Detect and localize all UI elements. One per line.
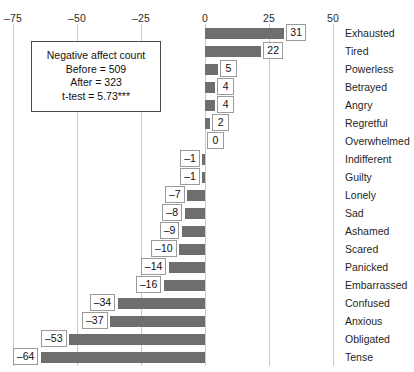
chart-row: –1Indifferent xyxy=(0,150,414,168)
bar xyxy=(205,100,215,111)
annotation-box: Negative affect count Before = 509 After… xyxy=(31,41,161,112)
annotation-line-3: After = 323 xyxy=(36,76,156,90)
bar xyxy=(41,352,205,363)
bar-value-label: –1 xyxy=(180,168,200,185)
bar xyxy=(164,280,205,291)
bar-value-label: –16 xyxy=(136,276,162,293)
bar-value-label: –53 xyxy=(41,330,67,347)
bar-value-label: 31 xyxy=(286,24,306,41)
bar xyxy=(182,226,205,237)
category-label: Lonely xyxy=(345,186,376,204)
bar xyxy=(118,298,205,309)
diverging-bar-chart: –75–50–2502550 31Exhausted22Tired5Powerl… xyxy=(0,0,414,372)
chart-row: 2Regretful xyxy=(0,114,414,132)
bar xyxy=(205,64,218,75)
category-label: Guilty xyxy=(345,168,372,186)
bar-value-label: 22 xyxy=(263,42,283,59)
annotation-line-4: t-test = 5.73*** xyxy=(36,90,156,104)
x-axis-tick-label: –25 xyxy=(132,12,150,24)
annotation-line-2: Before = 509 xyxy=(36,63,156,77)
chart-row: –7Lonely xyxy=(0,186,414,204)
chart-row: –37Anxious xyxy=(0,312,414,330)
bar-value-label: 4 xyxy=(217,78,234,95)
category-label: Tense xyxy=(345,348,373,366)
bar xyxy=(205,28,284,39)
chart-row: –16Embarrassed xyxy=(0,276,414,294)
x-axis-tick-label: –75 xyxy=(4,12,22,24)
category-label: Angry xyxy=(345,96,372,114)
x-axis-tick-label: 0 xyxy=(202,12,208,24)
bar-value-label: –9 xyxy=(160,222,180,239)
chart-row: –10Scared xyxy=(0,240,414,258)
bar xyxy=(110,316,205,327)
category-label: Exhausted xyxy=(345,24,395,42)
bar-value-label: 5 xyxy=(220,60,237,77)
category-label: Tired xyxy=(345,42,369,60)
bar-value-label: –14 xyxy=(141,258,167,275)
category-label: Ashamed xyxy=(345,222,389,240)
category-label: Scared xyxy=(345,240,378,258)
bar-value-label: –7 xyxy=(165,186,185,203)
bar xyxy=(185,208,205,219)
category-label: Confused xyxy=(345,294,390,312)
chart-row: –14Panicked xyxy=(0,258,414,276)
bar-value-label: –37 xyxy=(82,312,108,329)
bar xyxy=(179,244,205,255)
bar xyxy=(202,154,205,165)
category-label: Regretful xyxy=(345,114,388,132)
category-label: Panicked xyxy=(345,258,388,276)
bar-value-label: –64 xyxy=(13,348,39,365)
annotation-line-1: Negative affect count xyxy=(36,49,156,63)
chart-row: –34Confused xyxy=(0,294,414,312)
x-axis-tick-label: 25 xyxy=(263,12,275,24)
chart-row: 0Overwhelmed xyxy=(0,132,414,150)
category-label: Anxious xyxy=(345,312,382,330)
chart-row: –64Tense xyxy=(0,348,414,366)
bar-value-label: –34 xyxy=(90,294,116,311)
bar-value-label: –8 xyxy=(162,204,182,221)
bar-value-label: 4 xyxy=(217,96,234,113)
chart-row: –9Ashamed xyxy=(0,222,414,240)
bar xyxy=(187,190,205,201)
bar xyxy=(205,118,210,129)
category-label: Obligated xyxy=(345,330,390,348)
chart-row: 31Exhausted xyxy=(0,24,414,42)
x-axis-tick-label: 50 xyxy=(327,12,339,24)
bar xyxy=(202,172,205,183)
bar-value-label: –1 xyxy=(180,150,200,167)
bar-value-label: 2 xyxy=(212,114,229,131)
bar xyxy=(205,46,261,57)
category-label: Powerless xyxy=(345,60,393,78)
bar-value-label: 0 xyxy=(207,132,224,149)
bar xyxy=(69,334,205,345)
category-label: Indifferent xyxy=(345,150,392,168)
chart-row: –1Guilty xyxy=(0,168,414,186)
chart-row: –8Sad xyxy=(0,204,414,222)
chart-row: –53Obligated xyxy=(0,330,414,348)
bar-value-label: –10 xyxy=(151,240,177,257)
bar xyxy=(205,82,215,93)
category-label: Sad xyxy=(345,204,364,222)
category-label: Overwhelmed xyxy=(345,132,410,150)
x-axis-tick-label: –50 xyxy=(68,12,86,24)
category-label: Embarrassed xyxy=(345,276,407,294)
bar xyxy=(169,262,205,273)
category-label: Betrayed xyxy=(345,78,387,96)
